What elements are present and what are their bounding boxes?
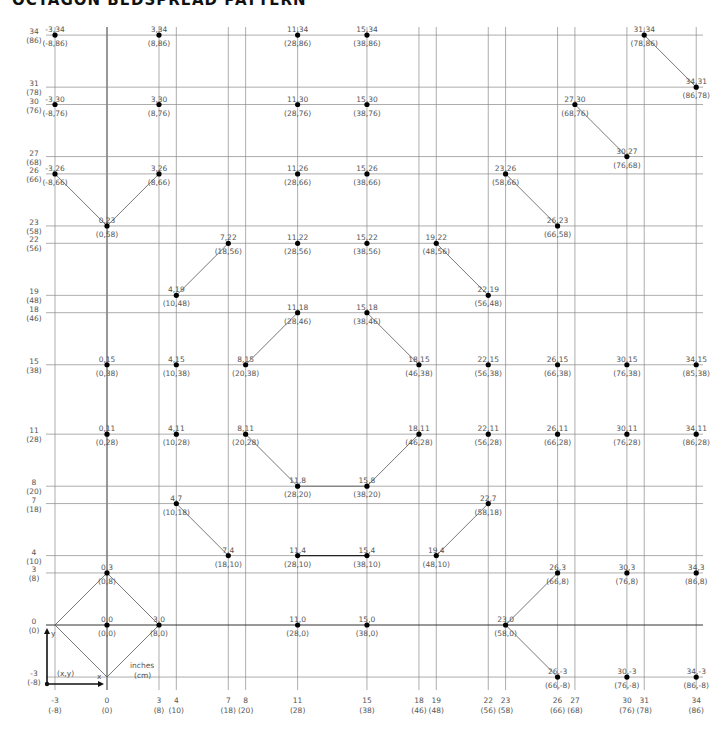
- y-tick-label-cm: (76): [26, 106, 41, 115]
- point-label-cm: (10,28): [163, 438, 190, 447]
- point-label-cm: (76,8): [616, 577, 639, 586]
- point-label-cm: (66,28): [544, 438, 571, 447]
- point-label-cm: (8,66): [148, 178, 171, 187]
- y-tick-label: 31: [29, 79, 39, 88]
- point-label-cm: (56,38): [475, 369, 502, 378]
- point-label-inches: 11,34: [287, 25, 309, 34]
- point-label-inches: 15,26: [356, 164, 378, 173]
- point-label-cm: (20,38): [232, 369, 259, 378]
- point-label-cm: (76,38): [613, 369, 640, 378]
- y-tick-label: 30: [29, 97, 39, 106]
- point-label-inches: 15,34: [356, 25, 378, 34]
- point-label-inches: 15,18: [356, 303, 378, 312]
- y-arrowhead-icon: [44, 628, 50, 634]
- point-label-inches: 7,4: [222, 546, 234, 555]
- pattern-points: -3,34(-8,86)3,34(8,86)11,34(28,86)15,34(…: [42, 25, 710, 690]
- point-label-inches: 15,4: [359, 546, 376, 555]
- point-label-cm: (18,56): [215, 247, 242, 256]
- y-tick-label: 26: [29, 166, 39, 175]
- x-tick-label-cm: (86): [689, 706, 704, 715]
- point-label-cm: (48,10): [423, 560, 450, 569]
- point-label-inches: 18,11: [408, 424, 430, 433]
- point-label-cm: (58,0): [494, 629, 517, 638]
- point-label-cm: (66,8): [546, 577, 569, 586]
- x-tick-label-cm: (10): [169, 706, 184, 715]
- point-label-inches: 15,30: [356, 95, 378, 104]
- point-label-inches: 3,0: [153, 615, 165, 624]
- point-label-inches: 23,0: [497, 615, 514, 624]
- point-label-cm: (8,76): [148, 109, 171, 118]
- point-label-inches: -3,26: [45, 164, 65, 173]
- y-tick-label: 11: [29, 426, 39, 435]
- x-tick-label: 11: [293, 696, 303, 705]
- point-label-inches: 7,22: [220, 233, 237, 242]
- point-label-inches: 27,30: [564, 95, 586, 104]
- point-label-cm: (85,38): [683, 369, 710, 378]
- point-label-cm: (0,0): [98, 629, 116, 638]
- y-tick-label: 8: [32, 478, 37, 487]
- point-label-inches: 26,3: [549, 563, 566, 572]
- y-tick-label-cm: (46): [26, 314, 41, 323]
- point-label-inches: 15,0: [359, 615, 376, 624]
- point-label-cm: (38,10): [353, 560, 380, 569]
- point-label-cm: (-8,86): [42, 39, 67, 48]
- x-tick-label: 22: [483, 696, 493, 705]
- point-label-cm: (56,48): [475, 299, 502, 308]
- point-label-inches: 0,15: [99, 355, 116, 364]
- point-label-cm: (8,0): [150, 629, 168, 638]
- x-tick-label: 8: [243, 696, 248, 705]
- point-label-inches: 11,18: [287, 303, 309, 312]
- point-label-inches: 11,0: [289, 615, 306, 624]
- y-tick-label-cm: (66): [26, 175, 41, 184]
- point-label-cm: (20,28): [232, 438, 259, 447]
- point-label-inches: 22,19: [478, 285, 500, 294]
- x-tick-label-cm: (18): [221, 706, 236, 715]
- point-label-cm: (76,-8): [614, 681, 639, 690]
- x-tick-label-cm: (8): [154, 706, 165, 715]
- point-label-cm: (46,28): [405, 438, 432, 447]
- point-label-cm: (56,28): [475, 438, 502, 447]
- point-label-cm: (38,76): [353, 109, 380, 118]
- y-tick-label-cm: (38): [26, 366, 41, 375]
- y-tick-label: 22: [29, 235, 39, 244]
- x-tick-label: 23: [501, 696, 511, 705]
- x-tick-label: 15: [362, 696, 372, 705]
- point-label-inches: 4,19: [168, 285, 185, 294]
- point-label-cm: (86,8): [685, 577, 708, 586]
- point-label-cm: (0,28): [96, 438, 119, 447]
- y-tick-label: -3: [30, 669, 38, 678]
- x-tick-label: 31: [639, 696, 649, 705]
- point-label-inches: 31,34: [633, 25, 655, 34]
- y-tick-label: 0: [32, 617, 37, 626]
- point-label-inches: 0,0: [101, 615, 113, 624]
- x-tick-label: 19: [431, 696, 441, 705]
- units-cm-label: (cm): [134, 671, 151, 680]
- point-label-inches: 11,8: [289, 476, 306, 485]
- point-label-cm: (38,20): [353, 490, 380, 499]
- units-inches-label: inches: [130, 661, 154, 670]
- point-label-cm: (0,8): [98, 577, 116, 586]
- point-label-inches: 34,3: [688, 563, 705, 572]
- point-label-inches: 30,11: [616, 424, 638, 433]
- point-label-inches: 26,23: [547, 216, 569, 225]
- point-label-cm: (78,86): [631, 39, 658, 48]
- pattern-segments: [55, 35, 696, 677]
- point-label-inches: 22,15: [478, 355, 500, 364]
- point-label-inches: 11,26: [287, 164, 309, 173]
- point-label-inches: 4,7: [170, 494, 182, 503]
- point-label-inches: -3,30: [45, 95, 65, 104]
- point-label-inches: 11,30: [287, 95, 309, 104]
- point-label-inches: 15,8: [359, 476, 376, 485]
- point-label-inches: 11,22: [287, 233, 309, 242]
- y-tick-label-cm: (8): [29, 574, 40, 583]
- point-label-cm: (28,86): [284, 39, 311, 48]
- x-tick-label: 26: [553, 696, 563, 705]
- legend-x-label: x: [97, 672, 102, 681]
- y-tick-label: 27: [29, 149, 39, 158]
- x-tick-label-cm: (28): [290, 706, 305, 715]
- point-label-cm: (28,10): [284, 560, 311, 569]
- point-label-cm: (38,86): [353, 39, 380, 48]
- y-tick-label-cm: (0): [29, 626, 40, 635]
- point-label-inches: 0,3: [101, 563, 113, 572]
- point-label-cm: (76,28): [613, 438, 640, 447]
